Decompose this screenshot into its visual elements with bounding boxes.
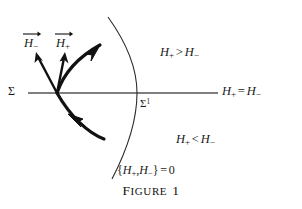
upper-lhs: H: [160, 45, 169, 59]
equality-lhs: H: [222, 84, 231, 98]
axis-label-sigma: Σ: [8, 84, 15, 99]
upper-operator: >: [176, 45, 183, 59]
lower-lhs: H: [176, 132, 185, 146]
vector-overbar-arrow-icon: [23, 31, 41, 37]
lower-operator: <: [192, 132, 199, 146]
vector-arrow-h-minus: [35, 52, 58, 93]
axis-label-equality: H+=H−: [222, 84, 261, 99]
upper-rhs-subscript: −: [194, 50, 199, 60]
lower-rhs-subscript: −: [210, 137, 215, 147]
equality-rhs-subscript: −: [256, 89, 261, 99]
caption-number: 1: [172, 183, 179, 198]
figure-canvas: Σ Σ1 H+=H− H+>H− H+<H− {H+,H−}=0 H−: [0, 0, 302, 209]
caption-word: IGURE: [131, 185, 168, 197]
vector-h-plus-subscript: +: [65, 41, 70, 51]
equality-operator: =: [238, 84, 245, 98]
bracket-value: 0: [169, 163, 175, 177]
region-label-lower: H+<H−: [176, 132, 215, 147]
equality-rhs: H: [247, 84, 256, 98]
sigma-one-superscript: 1: [146, 98, 150, 106]
upper-lhs-subscript: +: [169, 50, 174, 60]
axis-label-sigma-one: Σ1: [140, 97, 150, 109]
curve-label-poisson-bracket: {H+,H−}=0: [117, 163, 175, 178]
lower-rhs: H: [201, 132, 210, 146]
vector-overbar-arrow-icon: [55, 31, 73, 37]
figure-caption: FIGURE1: [0, 183, 302, 199]
vector-h-minus-subscript: −: [33, 41, 38, 51]
equality-lhs-subscript: +: [231, 89, 236, 99]
lower-lhs-subscript: +: [185, 137, 190, 147]
vector-label-h-plus: H+: [56, 33, 70, 51]
bracket-close: }: [153, 163, 159, 177]
poisson-bracket-curve: [108, 17, 137, 179]
upper-rhs: H: [185, 45, 194, 59]
bracket-operator: =: [160, 163, 167, 177]
caption-first-letter: F: [122, 183, 130, 198]
bracket-rhs: H: [139, 163, 148, 177]
region-label-upper: H+>H−: [160, 45, 199, 60]
vector-h-minus-symbol: H: [24, 36, 33, 50]
vector-label-h-minus: H−: [24, 33, 38, 51]
vector-h-plus-symbol: H: [56, 36, 65, 50]
